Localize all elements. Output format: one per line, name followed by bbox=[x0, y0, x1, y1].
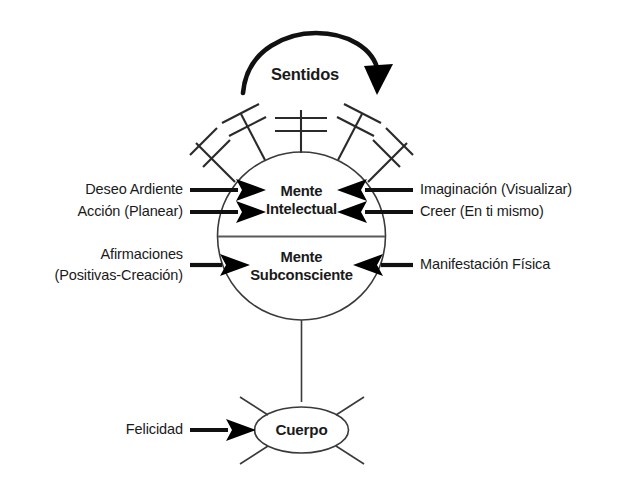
sensory-ray-left bbox=[222, 104, 266, 160]
label-manifestacion-fisica: Manifestación Física bbox=[420, 256, 551, 272]
label-deseo-ardiente: Deseo Ardiente bbox=[85, 181, 183, 197]
mind-body-diagram: Mente Intelectual Mente Subconsciente Cu… bbox=[0, 0, 619, 490]
body-ray-upper-left bbox=[240, 397, 268, 415]
label-afirmaciones-line2: (Positivas-Creación) bbox=[54, 267, 183, 283]
label-accion-planear: Acción (Planear) bbox=[77, 203, 183, 219]
mente-subconsciente-line2: Subconsciente bbox=[250, 267, 353, 283]
sensory-ray-right bbox=[337, 104, 381, 160]
mente-subconsciente-line1: Mente bbox=[281, 249, 323, 265]
label-imaginacion-visualizar: Imaginación (Visualizar) bbox=[420, 181, 572, 197]
body-ray-upper-right bbox=[336, 397, 364, 415]
mente-intelectual-line2: Intelectual bbox=[266, 201, 337, 217]
mind-circle bbox=[218, 152, 386, 320]
sentidos-arrowhead bbox=[364, 64, 393, 95]
label-sentidos: Sentidos bbox=[271, 65, 339, 83]
sentidos-flow-arrow bbox=[243, 33, 393, 95]
sensory-ray-top bbox=[275, 110, 327, 153]
cuerpo-label: Cuerpo bbox=[276, 421, 328, 438]
sensory-ray-far-left bbox=[190, 128, 235, 182]
diagram-canvas: Mente Intelectual Mente Subconsciente Cu… bbox=[0, 0, 619, 490]
input-arrow-creer bbox=[337, 201, 413, 223]
input-arrow-felicidad bbox=[190, 419, 256, 441]
input-arrow-imaginacion bbox=[337, 179, 413, 201]
input-arrow-deseo-ardiente bbox=[190, 179, 266, 201]
label-creer-en-ti-mismo: Creer (En ti mismo) bbox=[420, 203, 544, 219]
sensory-ray-far-right bbox=[368, 128, 413, 182]
body-ray-lower-left bbox=[240, 446, 268, 464]
label-felicidad: Felicidad bbox=[126, 421, 183, 437]
sentidos-arc-path bbox=[243, 33, 378, 93]
sensory-rays-group bbox=[190, 104, 413, 182]
body-ray-lower-right bbox=[336, 446, 364, 464]
mente-intelectual-line1: Mente bbox=[281, 183, 323, 199]
label-afirmaciones-line1: Afirmaciones bbox=[100, 246, 183, 262]
input-arrow-accion-planear bbox=[190, 201, 266, 223]
